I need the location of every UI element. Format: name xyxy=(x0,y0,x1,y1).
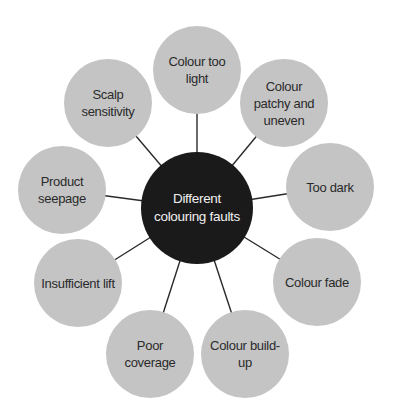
node-colour-patchy-and-uneven: Colour patchy and uneven xyxy=(240,59,328,147)
node-label: Colour build-up xyxy=(201,337,289,371)
node-label: Poor coverage xyxy=(106,337,194,371)
node-scalp-sensitivity: Scalp sensitivity xyxy=(64,59,152,147)
node-poor-coverage: Poor coverage xyxy=(106,310,194,398)
node-label: Scalp sensitivity xyxy=(64,86,152,120)
node-colour-build-up: Colour build-up xyxy=(201,310,289,398)
center-node-label: Different colouring faults xyxy=(141,190,253,226)
node-label: Colour patchy and uneven xyxy=(240,78,328,129)
node-product-seepage: Product seepage xyxy=(18,146,106,234)
node-label: Colour fade xyxy=(279,274,355,291)
node-label: Colour too light xyxy=(153,53,241,87)
node-insufficient-lift: Insufficient lift xyxy=(34,239,122,327)
node-too-dark: Too dark xyxy=(286,143,374,231)
node-colour-fade: Colour fade xyxy=(273,238,361,326)
node-label: Insufficient lift xyxy=(35,275,120,292)
center-node-different-colouring-faults: Different colouring faults xyxy=(141,152,253,264)
node-label: Too dark xyxy=(300,179,359,196)
node-label: Product seepage xyxy=(18,173,106,207)
node-colour-too-light: Colour too light xyxy=(153,26,241,114)
